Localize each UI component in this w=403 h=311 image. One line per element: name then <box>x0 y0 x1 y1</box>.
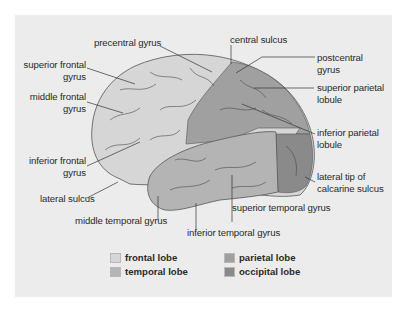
temporal-swatch <box>110 267 121 277</box>
occipital-swatch <box>224 267 235 277</box>
label-inferior-temporal-gyrus: inferior temporal gyrus <box>187 227 280 239</box>
label-precentral-gyrus: precentral gyrus <box>94 37 161 49</box>
label-postcentral-gyrus: postcentral gyrus <box>317 52 363 75</box>
frontal-swatch <box>110 253 121 263</box>
label-inferior-parietal-lobule: inferior parietal lobule <box>317 127 379 150</box>
label-middle-temporal-gyrus: middle temporal gyrus <box>75 215 167 227</box>
label-superior-frontal-gyrus: superior frontal gyrus <box>24 59 86 82</box>
label-superior-temporal-gyrus: superior temporal gyrus <box>232 202 330 214</box>
legend-item-frontal: frontal lobe <box>110 252 177 263</box>
label-calcarine-sulcus: lateral tip of calcarine sulcus <box>317 171 384 194</box>
legend-item-temporal: temporal lobe <box>110 266 188 277</box>
label-middle-frontal-gyrus: middle frontal gyrus <box>30 91 86 114</box>
label-inferior-frontal-gyrus: inferior frontal gyrus <box>29 155 86 178</box>
occipital-lobe-region <box>276 134 313 193</box>
label-superior-parietal-lobule: superior parietal lobule <box>317 82 384 105</box>
legend-item-occipital: occipital lobe <box>224 266 300 277</box>
label-central-sulcus: central sulcus <box>230 34 287 46</box>
parietal-swatch <box>224 253 235 263</box>
legend-item-parietal: parietal lobe <box>224 252 296 263</box>
label-lateral-sulcus: lateral sulcus <box>40 193 95 205</box>
